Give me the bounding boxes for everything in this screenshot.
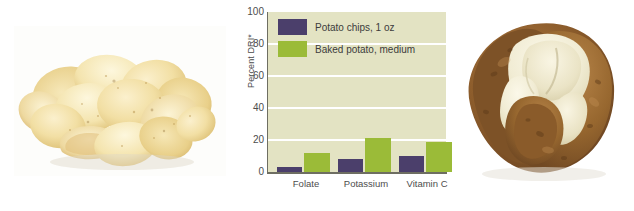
gridline-40 xyxy=(268,107,446,109)
potato-chips-photo xyxy=(14,26,226,176)
bar-baked-folate xyxy=(304,153,330,172)
x-tick-folate: Folate xyxy=(276,178,336,189)
baked-potato-illustration xyxy=(452,8,630,204)
legend-swatch-chips xyxy=(278,19,307,35)
y-tick-100: 100 xyxy=(238,7,264,17)
gridline-20 xyxy=(268,139,446,141)
y-tick-20: 20 xyxy=(238,135,264,145)
y-axis-ticks: 100 80 60 40 20 0 xyxy=(234,0,264,211)
legend-item-baked: Baked potato, medium xyxy=(278,38,415,60)
bar-baked-vitamin-c xyxy=(426,142,452,172)
x-tick-vitamin-c: Vitamin C xyxy=(396,178,458,189)
y-tick-80: 80 xyxy=(238,39,264,49)
y-tick-0: 0 xyxy=(238,167,264,177)
gridline-60 xyxy=(268,75,446,77)
baked-potato-photo xyxy=(452,8,630,204)
x-tick-potassium: Potassium xyxy=(334,178,398,189)
legend-swatch-baked xyxy=(278,41,307,57)
potato-chips-illustration xyxy=(14,26,226,176)
bar-baked-potassium xyxy=(365,138,391,172)
legend-item-chips: Potato chips, 1 oz xyxy=(278,16,415,38)
y-tick-60: 60 xyxy=(238,71,264,81)
legend-label-baked: Baked potato, medium xyxy=(315,44,415,55)
bar-chips-potassium xyxy=(338,159,363,172)
y-tick-40: 40 xyxy=(238,103,264,113)
x-axis-line xyxy=(267,172,447,174)
bar-chips-vitamin-c xyxy=(399,156,424,172)
legend-label-chips: Potato chips, 1 oz xyxy=(315,22,395,33)
chart-legend: Potato chips, 1 oz Baked potato, medium xyxy=(278,16,415,60)
nutrition-comparison-figure: Percent DRI* 100 80 60 40 20 0 xyxy=(0,0,634,211)
nutrient-bar-chart: Percent DRI* 100 80 60 40 20 0 xyxy=(234,0,454,211)
